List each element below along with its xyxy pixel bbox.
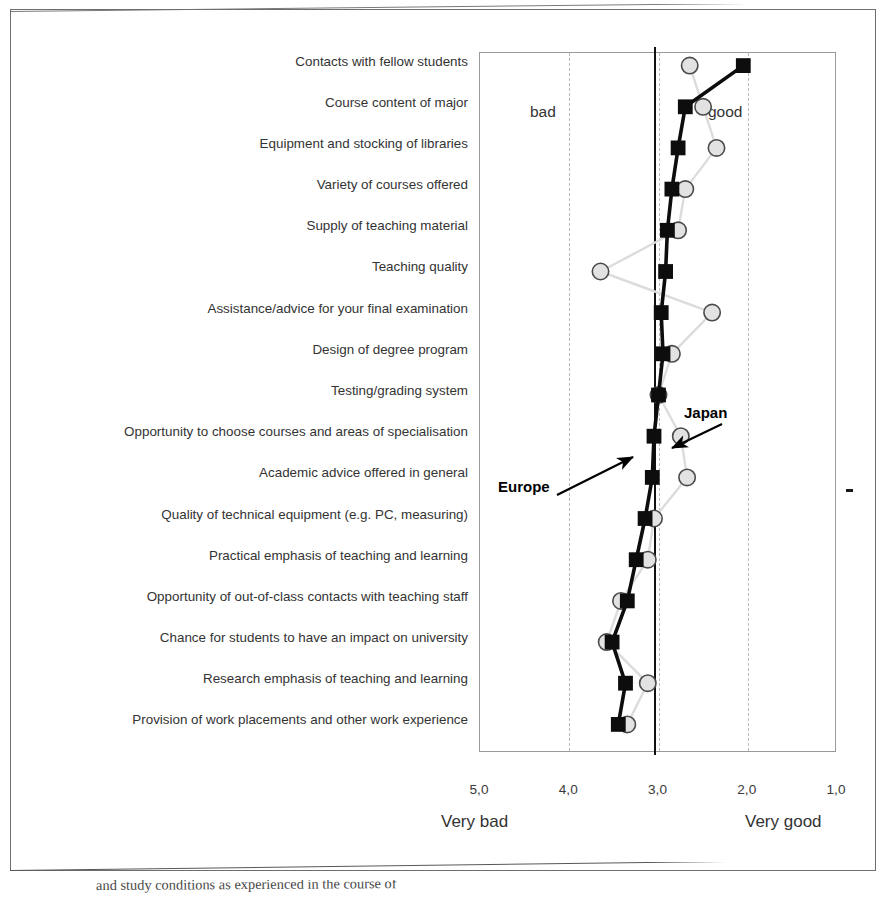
data-point-europe bbox=[620, 594, 635, 609]
category-label: Quality of technical equipment (e.g. PC,… bbox=[60, 507, 468, 522]
data-point-japan bbox=[673, 428, 689, 444]
category-label: Assistance/advice for your final examina… bbox=[60, 301, 468, 316]
data-point-japan bbox=[677, 181, 693, 197]
data-point-europe bbox=[665, 182, 680, 197]
category-axis-labels: Contacts with fellow studentsCourse cont… bbox=[60, 48, 468, 748]
data-point-europe bbox=[678, 99, 693, 114]
category-label: Testing/grading system bbox=[60, 383, 468, 398]
data-point-europe bbox=[658, 264, 673, 279]
series-plot bbox=[480, 53, 837, 753]
data-point-europe bbox=[605, 635, 620, 650]
data-point-japan bbox=[695, 99, 711, 115]
scan-artifact-dash bbox=[846, 489, 853, 492]
x-tick-label: 5,0 bbox=[470, 782, 489, 797]
category-label: Variety of courses offered bbox=[60, 177, 468, 192]
data-point-japan bbox=[592, 263, 608, 279]
series-line-europe bbox=[612, 66, 743, 725]
category-label: Equipment and stocking of libraries bbox=[60, 136, 468, 151]
category-label: Chance for students to have an impact on… bbox=[60, 630, 468, 645]
scale-label-very-good: Very good bbox=[745, 812, 822, 832]
data-point-europe bbox=[660, 223, 675, 238]
data-point-europe bbox=[629, 552, 644, 567]
x-tick-label: 1,0 bbox=[827, 782, 846, 797]
category-label: Provision of work placements and other w… bbox=[60, 712, 468, 727]
caption-text: and study conditions as experienced in t… bbox=[96, 880, 397, 894]
scale-label-very-bad: Very bad bbox=[441, 812, 508, 832]
plot-area: bad good bbox=[479, 52, 836, 752]
data-point-europe bbox=[638, 511, 653, 526]
category-label: Course content of major bbox=[60, 95, 468, 110]
x-tick-label: 4,0 bbox=[559, 782, 578, 797]
data-point-japan bbox=[704, 304, 720, 320]
figure-caption: and study conditions as experienced in t… bbox=[0, 880, 888, 897]
category-label: Design of degree program bbox=[60, 342, 468, 357]
data-point-japan bbox=[708, 140, 724, 156]
category-label: Practical emphasis of teaching and learn… bbox=[60, 548, 468, 563]
category-label: Research emphasis of teaching and learni… bbox=[60, 671, 468, 686]
category-label: Opportunity of out-of-class contacts wit… bbox=[60, 589, 468, 604]
annotation-label-japan: Japan bbox=[684, 404, 727, 421]
data-point-europe bbox=[647, 429, 662, 444]
data-point-europe bbox=[736, 58, 751, 73]
category-label: Supply of teaching material bbox=[60, 218, 468, 233]
quality-of-study-comparison-chart: Contacts with fellow studentsCourse cont… bbox=[0, 0, 888, 897]
data-point-europe bbox=[618, 676, 633, 691]
category-label: Academic advice offered in general bbox=[60, 465, 468, 480]
data-point-europe bbox=[654, 305, 669, 320]
data-point-europe bbox=[651, 388, 666, 403]
category-label: Teaching quality bbox=[60, 259, 468, 274]
annotation-label-europe: Europe bbox=[498, 478, 550, 495]
x-tick-label: 3,0 bbox=[648, 782, 667, 797]
data-point-japan bbox=[682, 57, 698, 73]
data-point-europe bbox=[671, 141, 686, 156]
x-axis-ticks: 5,04,03,02,01,0 bbox=[479, 782, 836, 804]
category-label: Contacts with fellow students bbox=[60, 54, 468, 69]
data-point-europe bbox=[611, 717, 626, 732]
category-label: Opportunity to choose courses and areas … bbox=[60, 424, 468, 439]
data-point-japan bbox=[679, 469, 695, 485]
x-tick-label: 2,0 bbox=[737, 782, 756, 797]
data-point-europe bbox=[656, 346, 671, 361]
data-point-japan bbox=[640, 675, 656, 691]
data-point-europe bbox=[645, 470, 660, 485]
